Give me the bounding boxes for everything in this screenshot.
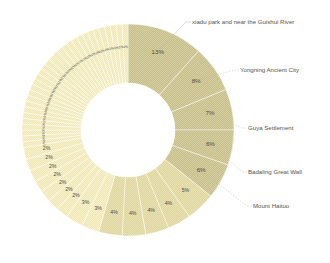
donut-center-hole: [81, 83, 175, 177]
pie-value-label: 5%: [182, 187, 190, 193]
callout-label[interactable]: Guya Settlement: [248, 124, 294, 131]
pie-value-label: 2%: [45, 154, 53, 160]
pie-slices: [22, 24, 234, 236]
callout-label[interactable]: xiadu park and near the Guishui River: [192, 18, 294, 25]
pie-value-label: 2%: [49, 163, 57, 169]
callout-label[interactable]: Yongning Ancient City: [240, 66, 300, 73]
donut-chart: 13%8%7%6%6%5%4%4%4%4%3%3%2%2%2%2%2%2%2%1…: [0, 0, 330, 263]
pie-value-label: 6%: [206, 140, 215, 147]
pie-value-label: 6%: [197, 166, 206, 173]
pie-value-label: 2%: [59, 179, 67, 185]
pie-value-label: 2%: [72, 192, 80, 198]
pie-value-label: 7%: [205, 109, 214, 116]
pie-value-label: 3%: [82, 199, 90, 205]
callout-label[interactable]: Badaling Great Wall: [248, 168, 302, 175]
pie-value-label: 2%: [53, 171, 61, 177]
pie-value-label: 4%: [129, 210, 137, 216]
pie-value-label: 4%: [147, 207, 155, 213]
pie-value-label: 4%: [110, 209, 118, 215]
donut-chart-canvas: 13%8%7%6%6%5%4%4%4%4%3%3%2%2%2%2%2%2%2%1…: [0, 0, 330, 263]
pie-value-label: 3%: [94, 205, 102, 211]
pie-value-label: 2%: [65, 186, 73, 192]
pie-value-label: 4%: [165, 200, 173, 206]
callout-label[interactable]: Mount Haituo: [253, 202, 290, 209]
pie-value-label: 1%: [123, 45, 128, 49]
pie-value-label: 13%: [152, 48, 165, 55]
pie-value-label: 8%: [192, 77, 201, 84]
